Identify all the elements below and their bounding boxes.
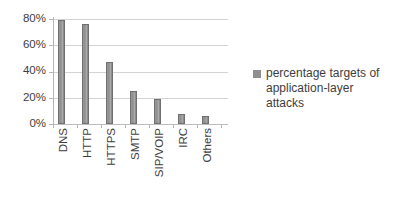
bar-others	[202, 116, 209, 124]
bar-smtp	[130, 91, 137, 124]
y-axis-tick-label-80: 80%	[2, 13, 46, 24]
y-axis-labels: 80% 60% 40% 20% 0%	[0, 0, 46, 206]
y-axis-tick-label-0: 0%	[2, 118, 46, 129]
bar-chart: 80% 60% 40% 20% 0%	[0, 0, 399, 206]
x-axis-label-others: Others	[201, 128, 213, 163]
y-axis-tick-label-40: 40%	[2, 65, 46, 76]
x-axis-label-https: HTTPS	[105, 128, 117, 166]
y-axis-tick-label-60: 60%	[2, 39, 46, 50]
legend-entry-label: percentage targets of application-layer …	[266, 66, 394, 111]
bar-series	[53, 19, 228, 124]
chart-legend: percentage targets of application-layer …	[253, 66, 399, 111]
bar-dns	[58, 20, 65, 124]
bar-https	[106, 62, 113, 124]
bar-http	[82, 24, 89, 124]
x-axis-label-sip-voip: SIP/VOIP	[153, 128, 165, 177]
x-axis-label-dns: DNS	[57, 128, 69, 152]
legend-color-swatch-icon	[253, 70, 261, 78]
x-axis-label-smtp: SMTP	[129, 128, 141, 160]
x-axis-label-http: HTTP	[81, 128, 93, 158]
y-axis-tick-label-20: 20%	[2, 92, 46, 103]
bar-sip-voip	[154, 99, 161, 124]
x-axis-label-irc: IRC	[177, 128, 189, 148]
bar-irc	[178, 114, 185, 125]
x-axis-labels: DNS HTTP HTTPS SMTP SIP/VOIP IRC Others	[53, 128, 233, 206]
